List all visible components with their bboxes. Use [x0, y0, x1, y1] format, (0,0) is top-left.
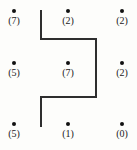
point-dot [12, 61, 16, 65]
point-label: (5) [0, 128, 28, 139]
point-label: (2) [108, 67, 136, 78]
point-label: (5) [0, 67, 28, 78]
point-label: (0) [108, 128, 136, 139]
point-label: (7) [0, 15, 28, 26]
point-dot [66, 61, 70, 65]
point-dot [12, 122, 16, 126]
point-dot [12, 9, 16, 13]
diagram-canvas: (7) (2) (2) (5) (7) (2) (5) (1) (0) [0, 0, 137, 150]
point-dot [120, 122, 124, 126]
point-label: (2) [108, 15, 136, 26]
point-dot [120, 9, 124, 13]
point-dot [120, 61, 124, 65]
point-dot [66, 122, 70, 126]
point-label: (2) [54, 15, 82, 26]
point-label: (7) [54, 67, 82, 78]
point-dot [66, 9, 70, 13]
point-label: (1) [54, 128, 82, 139]
